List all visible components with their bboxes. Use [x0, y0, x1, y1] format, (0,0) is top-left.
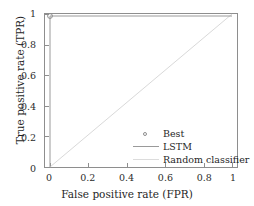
chart-legend: Best LSTM Random classifier	[133, 127, 245, 166]
legend-label-lstm: LSTM	[159, 141, 192, 152]
x-tick-label-1: 1	[230, 172, 236, 183]
legend-key-random-classifier	[133, 153, 159, 166]
legend-label-random-classifier: Random classifier	[159, 154, 249, 165]
x-tick-label-0p6: 0.6	[158, 172, 173, 183]
legend-entry-random-classifier: Random classifier	[133, 153, 245, 166]
y-tick-mark-0	[45, 167, 49, 168]
line-swatch-icon	[133, 146, 159, 147]
x-tick-label-0p2: 0.2	[80, 172, 95, 183]
y-tick-label-0p6: 0.6	[8, 70, 36, 81]
legend-key-lstm	[133, 140, 159, 153]
y-tick-label-0: 0	[8, 163, 36, 174]
x-tick-label-0: 0	[46, 172, 52, 183]
x-tick-label-0p4: 0.4	[119, 172, 134, 183]
x-axis-title: False positive rate (FPR)	[0, 188, 254, 200]
y-tick-label-0p8: 0.8	[8, 39, 36, 50]
light-line-swatch-icon	[133, 159, 159, 160]
y-tick-label-1: 1	[8, 8, 36, 19]
legend-entry-lstm: LSTM	[133, 140, 245, 153]
circle-marker-icon	[143, 132, 147, 136]
legend-key-best	[133, 127, 159, 140]
x-tick-label-0p8: 0.8	[197, 172, 212, 183]
y-tick-label-0p2: 0.2	[8, 132, 36, 143]
legend-entry-best: Best	[133, 127, 245, 140]
legend-label-best: Best	[159, 128, 184, 139]
y-tick-label-0p4: 0.4	[8, 101, 36, 112]
roc-curve-figure: True positive rate (TPR) False positive …	[0, 0, 254, 206]
